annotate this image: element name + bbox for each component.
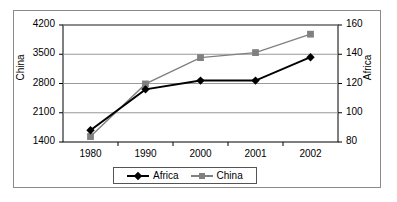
- square-marker-icon: [191, 171, 213, 181]
- y-tick-label-left: 2800: [21, 77, 55, 88]
- x-tick-label: 2000: [178, 148, 224, 159]
- diamond-marker-icon: [127, 171, 149, 181]
- x-tick-label: 2002: [288, 148, 334, 159]
- y-tick-label-right: 140: [346, 47, 380, 58]
- y-tick-label-left: 1400: [21, 135, 55, 146]
- chart-legend: Africa China: [113, 167, 257, 184]
- y-tick-label-left: 2100: [21, 106, 55, 117]
- y-tick-label-left: 4200: [21, 18, 55, 29]
- legend-label-africa: Africa: [153, 170, 179, 181]
- x-tick-label: 2001: [233, 148, 279, 159]
- y-tick-label-right: 160: [346, 18, 380, 29]
- legend-item-africa[interactable]: Africa: [127, 170, 179, 181]
- x-tick-label: 1980: [68, 148, 114, 159]
- legend-item-china[interactable]: China: [191, 170, 243, 181]
- y-tick-label-right: 100: [346, 106, 380, 117]
- data-point-china: [307, 31, 314, 38]
- data-point-china: [197, 54, 204, 61]
- y-tick-label-right: 80: [346, 135, 380, 146]
- x-tick-label: 1990: [123, 148, 169, 159]
- legend-label-china: China: [217, 170, 243, 181]
- y-tick-label-right: 120: [346, 77, 380, 88]
- data-point-china: [252, 49, 259, 56]
- y-tick-label-left: 3500: [21, 47, 55, 58]
